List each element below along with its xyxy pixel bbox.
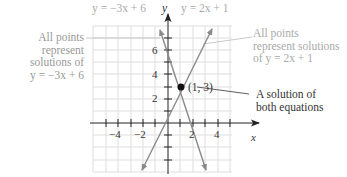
x-axis-label: x: [251, 131, 256, 143]
y-axis-label: y: [162, 2, 167, 15]
annotation-right-line: represent solutions: [253, 40, 340, 53]
annotation-right: All points represent solutions of y = 2x…: [253, 27, 340, 65]
equation-label-right: y = 2x + 1: [181, 2, 228, 15]
annotation-solution-line: both equations: [256, 101, 323, 114]
annotation-left: All points represent solutions of y = −3…: [0, 31, 84, 81]
y-tick-6: 6: [152, 44, 158, 56]
equation-label-left: y = −3x + 6: [92, 2, 146, 15]
annotation-right-line: of y = 2x + 1: [253, 52, 340, 65]
annotation-solution: A solution of both equations: [256, 88, 323, 113]
x-tick-2: 2: [189, 128, 195, 140]
x-tick-neg2: −2: [134, 128, 146, 140]
x-tick-4: 4: [214, 128, 220, 140]
intersection-point: [178, 84, 185, 91]
annotation-left-line: represent: [0, 44, 84, 57]
point-label: (1, 3): [188, 81, 213, 94]
annotation-right-line: All points: [253, 27, 340, 40]
y-tick-4: 4: [152, 68, 158, 80]
y-tick-2: 2: [152, 92, 158, 104]
annotation-left-line: All points: [0, 31, 84, 44]
grid: [93, 26, 232, 172]
annotation-solution-line: A solution of: [256, 88, 323, 101]
x-tick-neg4: −4: [109, 128, 121, 140]
annotation-left-line: solutions of: [0, 56, 84, 69]
annotation-left-line: y = −3x + 6: [0, 69, 84, 82]
